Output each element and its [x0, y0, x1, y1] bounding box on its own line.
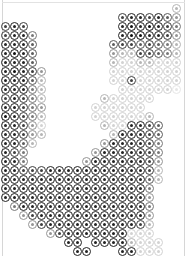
heatmap-cell-core	[85, 196, 88, 199]
heatmap-cell-core	[85, 160, 88, 163]
heatmap-cell-core	[148, 187, 151, 190]
heatmap-cell-core	[76, 214, 79, 217]
heatmap-cell-core	[4, 97, 7, 100]
heatmap-cell-core	[157, 70, 160, 73]
heatmap-cell-core	[4, 169, 7, 172]
heatmap-cell-core	[94, 169, 97, 172]
heatmap-cell-core	[157, 142, 160, 145]
heatmap-cell-core	[85, 250, 88, 253]
heatmap-cell-core	[58, 223, 61, 226]
heatmap-cell-core	[103, 196, 106, 199]
heatmap-cell-core	[103, 115, 106, 118]
heatmap-cell-core	[76, 223, 79, 226]
heatmap-cell-core	[31, 61, 34, 64]
heatmap-cell-core	[49, 187, 52, 190]
heatmap-cell-core	[31, 205, 34, 208]
heatmap-cell-core	[67, 223, 70, 226]
heatmap-cell-core	[112, 70, 115, 73]
heatmap-cell-core	[157, 133, 160, 136]
heatmap-cell-core	[22, 106, 25, 109]
heatmap-cell-core	[139, 187, 142, 190]
heatmap-cell-core	[58, 232, 61, 235]
heatmap-cell-core	[31, 142, 34, 145]
heatmap-cell-core	[31, 34, 34, 37]
heatmap-cell-core	[103, 178, 106, 181]
heatmap-cell-core	[139, 70, 142, 73]
heatmap-cell-core	[76, 196, 79, 199]
heatmap-cell-core	[121, 187, 124, 190]
heatmap-cell-core	[13, 88, 16, 91]
heatmap-cell-core	[121, 61, 124, 64]
heatmap-cell-core	[103, 124, 106, 127]
heatmap-cell-core	[112, 106, 115, 109]
heatmap-cell-core	[85, 214, 88, 217]
heatmap-cell-core	[148, 196, 151, 199]
heatmap-cell-core	[157, 88, 160, 91]
heatmap-cell-core	[130, 133, 133, 136]
heatmap-cell-core	[4, 187, 7, 190]
heatmap-cell-core	[76, 241, 79, 244]
heatmap-cell-core	[148, 115, 151, 118]
heatmap-cell-core	[13, 169, 16, 172]
heatmap-cell-core	[31, 88, 34, 91]
heatmap-cell-core	[4, 70, 7, 73]
heatmap-cell-core	[76, 205, 79, 208]
heatmap-cell-core	[67, 187, 70, 190]
heatmap-cell-core	[139, 61, 142, 64]
heatmap-cell-core	[139, 88, 142, 91]
heatmap-cell-core	[130, 106, 133, 109]
heatmap-cell-core	[22, 61, 25, 64]
heatmap-cell-core	[22, 214, 25, 217]
heatmap-cell-core	[31, 124, 34, 127]
dot-matrix-figure	[0, 0, 188, 256]
heatmap-cell-core	[148, 133, 151, 136]
heatmap-cell-core	[13, 34, 16, 37]
heatmap-cell-core	[139, 115, 142, 118]
heatmap-cell-core	[112, 79, 115, 82]
heatmap-cell-core	[166, 25, 169, 28]
heatmap-cell-core	[31, 196, 34, 199]
heatmap-cell-core	[139, 43, 142, 46]
heatmap-cell-core	[121, 34, 124, 37]
heatmap-cell-core	[13, 43, 16, 46]
heatmap-cell-core	[103, 205, 106, 208]
heatmap-cell-core	[157, 124, 160, 127]
heatmap-cell-core	[22, 97, 25, 100]
heatmap-cell-core	[31, 214, 34, 217]
heatmap-cell-core	[148, 169, 151, 172]
heatmap-cell-core	[139, 106, 142, 109]
heatmap-cell-core	[76, 187, 79, 190]
heatmap-cell-core	[103, 223, 106, 226]
heatmap-cell-core	[139, 151, 142, 154]
heatmap-cell-core	[103, 241, 106, 244]
heatmap-cell-core	[4, 160, 7, 163]
heatmap-cell-core	[4, 88, 7, 91]
heatmap-cell-core	[121, 151, 124, 154]
heatmap-cell-core	[40, 88, 43, 91]
heatmap-cell-core	[94, 115, 97, 118]
heatmap-cell-core	[13, 196, 16, 199]
heatmap-cell-core	[58, 196, 61, 199]
heatmap-cell-core	[31, 187, 34, 190]
heatmap-cell-core	[130, 88, 133, 91]
heatmap-cell-core	[121, 142, 124, 145]
heatmap-cell-core	[112, 43, 115, 46]
heatmap-cell-core	[22, 115, 25, 118]
heatmap-cell-core	[85, 232, 88, 235]
heatmap-cell-core	[130, 79, 133, 82]
heatmap-cell-core	[175, 88, 178, 91]
heatmap-cell-core	[121, 169, 124, 172]
heatmap-cell-core	[94, 241, 97, 244]
heatmap-cell-core	[121, 70, 124, 73]
heatmap-cell-core	[40, 106, 43, 109]
heatmap-cell-core	[157, 241, 160, 244]
heatmap-cell-core	[4, 25, 7, 28]
heatmap-cell-core	[40, 133, 43, 136]
heatmap-cell-core	[31, 169, 34, 172]
heatmap-cell-core	[13, 79, 16, 82]
heatmap-cell-core	[166, 34, 169, 37]
heatmap-cell-core	[22, 43, 25, 46]
heatmap-cell-core	[67, 214, 70, 217]
heatmap-cell-core	[130, 196, 133, 199]
heatmap-plot-area	[0, 0, 188, 256]
